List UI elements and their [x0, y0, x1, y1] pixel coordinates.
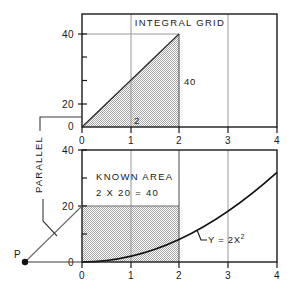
xtick-label-2-top: 2 — [176, 135, 182, 146]
ytick-label-20-bottom: 20 — [62, 201, 74, 212]
ytick-label-0-top: 0 — [68, 121, 74, 132]
technical-diagram: INTEGRAL GRID 40 20 0 0 1 2 3 4 40 2 — [0, 0, 292, 295]
xtick-label-1-bottom: 1 — [128, 270, 134, 281]
curve-label-main: Y = 2X — [208, 234, 241, 245]
ytick-label-20-top: 20 — [62, 99, 74, 110]
pole-label: P — [14, 249, 21, 260]
annotation-base-2: 2 — [134, 115, 140, 126]
curve-label: Y = 2X2 — [208, 233, 245, 245]
xtick-label-2-bottom: 2 — [176, 270, 182, 281]
xtick-label-3-bottom: 3 — [225, 270, 231, 281]
xtick-label-0-top: 0 — [79, 135, 85, 146]
curve-label-exponent: 2 — [241, 233, 245, 240]
bottom-chart-title-line1: KNOWN AREA — [96, 171, 173, 182]
xtick-label-4-bottom: 4 — [274, 270, 280, 281]
parallel-label: PARALLEL — [33, 136, 44, 193]
xtick-label-3-top: 3 — [225, 135, 231, 146]
ytick-label-40-bottom: 40 — [62, 145, 74, 156]
bottom-chart-title-line2: 2 X 20 = 40 — [96, 187, 159, 198]
top-chart-title: INTEGRAL GRID — [135, 17, 225, 28]
xtick-label-4-top: 4 — [274, 135, 280, 146]
xtick-label-0-bottom: 0 — [79, 270, 85, 281]
pole-point-dot — [22, 259, 28, 265]
xtick-label-1-top: 1 — [128, 135, 134, 146]
annotation-area-40: 40 — [184, 76, 196, 87]
figure-canvas: INTEGRAL GRID 40 20 0 0 1 2 3 4 40 2 — [0, 0, 292, 295]
ytick-label-40-top: 40 — [62, 29, 74, 40]
